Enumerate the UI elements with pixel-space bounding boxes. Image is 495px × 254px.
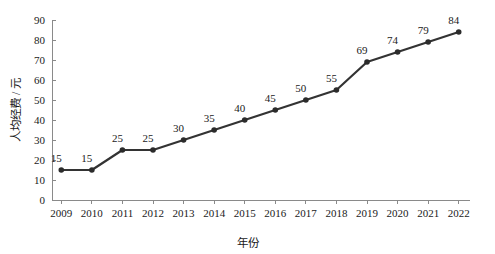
data-point-marker xyxy=(181,137,187,143)
data-point-marker xyxy=(303,97,309,103)
data-point-marker xyxy=(334,87,340,93)
x-axis: 2009201020112012201320142015201620172018… xyxy=(50,200,470,219)
data-point-marker xyxy=(395,49,401,55)
data-point-label: 30 xyxy=(173,122,185,134)
data-point-labels: 1515252530354045505569747984 xyxy=(51,14,460,164)
chart-canvas: 0102030405060708090 20092010201120122013… xyxy=(0,0,495,254)
data-point-label: 79 xyxy=(418,24,430,36)
data-point-marker xyxy=(242,117,248,123)
x-tick-label: 2016 xyxy=(264,207,287,219)
y-tick-label: 70 xyxy=(34,54,46,66)
y-tick-label: 30 xyxy=(34,134,46,146)
data-point-label: 25 xyxy=(143,132,155,144)
data-point-marker xyxy=(150,147,156,153)
data-point-label: 40 xyxy=(234,102,246,114)
data-point-label: 15 xyxy=(51,152,63,164)
y-axis-title: 人均经费 / 元 xyxy=(10,77,22,142)
x-tick-label: 2012 xyxy=(142,207,164,219)
data-point-marker xyxy=(456,29,462,35)
data-point-marker xyxy=(58,167,64,173)
data-point-label: 55 xyxy=(326,72,338,84)
y-tick-label: 50 xyxy=(34,94,46,106)
y-tick-label: 90 xyxy=(34,14,46,26)
data-point-marker xyxy=(211,127,217,133)
x-tick-label: 2014 xyxy=(203,207,226,219)
x-tick-label: 2020 xyxy=(387,207,410,219)
x-tick-label: 2015 xyxy=(234,207,257,219)
data-point-marker xyxy=(272,107,278,113)
y-axis: 0102030405060708090 xyxy=(34,14,56,206)
x-tick-label: 2013 xyxy=(173,207,196,219)
data-point-label: 35 xyxy=(204,112,216,124)
data-point-marker xyxy=(364,59,370,65)
x-tick-label: 2010 xyxy=(81,207,104,219)
data-point-marker xyxy=(89,167,95,173)
data-point-label: 45 xyxy=(265,92,277,104)
data-point-marker xyxy=(425,39,431,45)
y-tick-label: 10 xyxy=(34,174,46,186)
x-tick-label: 2019 xyxy=(356,207,379,219)
x-tick-label: 2017 xyxy=(295,207,318,219)
x-tick-label: 2018 xyxy=(325,207,348,219)
data-point-label: 15 xyxy=(81,152,93,164)
x-tick-label: 2021 xyxy=(417,207,439,219)
data-point-label: 25 xyxy=(112,132,124,144)
data-point-label: 84 xyxy=(448,14,460,26)
x-axis-title: 年份 xyxy=(237,236,260,249)
y-tick-label: 20 xyxy=(34,154,46,166)
y-tick-label: 40 xyxy=(34,114,46,126)
y-tick-label: 80 xyxy=(34,34,46,46)
y-tick-label: 60 xyxy=(34,74,46,86)
line-chart-figure: 0102030405060708090 20092010201120122013… xyxy=(0,0,495,254)
data-point-marker xyxy=(120,147,126,153)
data-point-label: 69 xyxy=(357,44,369,56)
x-tick-label: 2011 xyxy=(112,207,134,219)
x-tick-label: 2009 xyxy=(50,207,73,219)
y-tick-label: 0 xyxy=(40,194,46,206)
data-point-label: 50 xyxy=(295,82,307,94)
data-point-label: 74 xyxy=(387,34,399,46)
x-tick-label: 2022 xyxy=(448,207,470,219)
